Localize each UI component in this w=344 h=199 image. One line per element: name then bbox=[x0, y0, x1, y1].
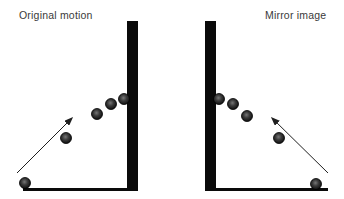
mirror-image-wall bbox=[205, 21, 216, 191]
original-motion-wall bbox=[127, 21, 138, 191]
physics-diagram: Original motion Mirror image bbox=[0, 0, 344, 199]
original-motion-ball-4 bbox=[106, 99, 117, 110]
original-motion-ball-3 bbox=[92, 109, 103, 120]
mirror-image-velocity-arrow bbox=[272, 118, 328, 173]
diagram-canvas bbox=[0, 0, 344, 199]
original-motion-ball-5 bbox=[119, 94, 130, 105]
mirror-image-ball-1 bbox=[214, 94, 225, 105]
mirror-image-ball-4 bbox=[274, 133, 285, 144]
mirror-image-ball-2 bbox=[228, 99, 239, 110]
mirror-image-floor bbox=[206, 188, 328, 191]
mirror-image-ball-3 bbox=[242, 111, 253, 122]
original-motion-ball-2 bbox=[61, 133, 72, 144]
original-motion-floor bbox=[23, 188, 138, 191]
original-motion-ball-1 bbox=[20, 178, 31, 189]
original-motion-velocity-arrow bbox=[17, 118, 72, 173]
mirror-image-ball-5 bbox=[311, 179, 322, 190]
